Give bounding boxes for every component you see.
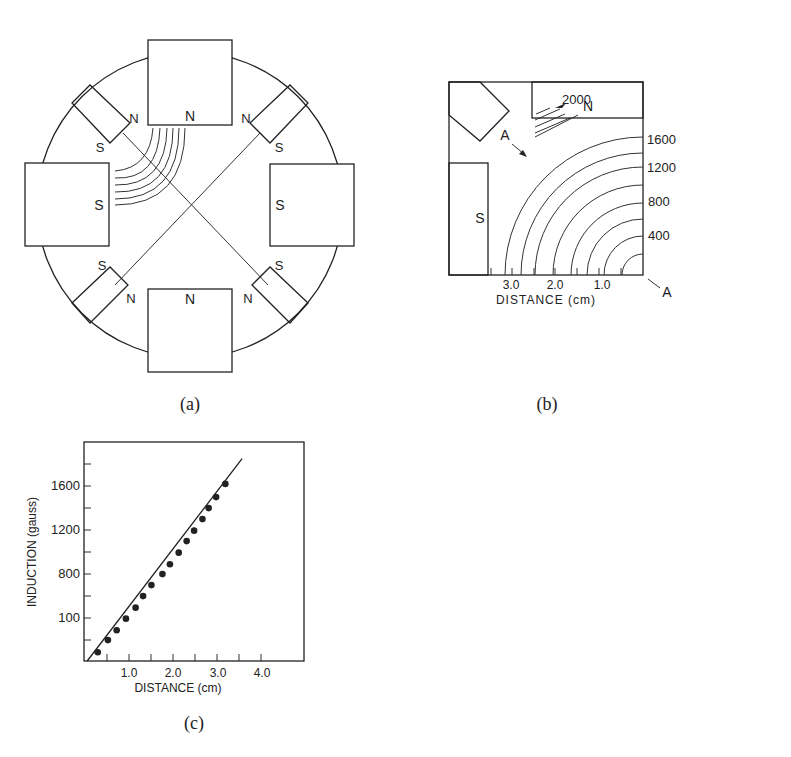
data-point bbox=[205, 505, 212, 512]
contour-label-1200: 1200 bbox=[647, 160, 676, 175]
figure-c: 1600 1200 800 100 INDUCTION (gauss) 1.0 … bbox=[25, 442, 304, 734]
x-tick-1: 1.0 bbox=[594, 278, 611, 292]
corner-a-leader bbox=[648, 279, 660, 288]
data-point bbox=[159, 571, 166, 578]
br-south-label: S bbox=[275, 258, 284, 273]
br-north-label: N bbox=[243, 291, 252, 306]
x-axis-ticks bbox=[107, 654, 261, 661]
top-left-small-magnet bbox=[72, 85, 130, 143]
right-pole-label: S bbox=[275, 197, 284, 213]
caption-b: (b) bbox=[537, 394, 558, 415]
caption-c: (c) bbox=[184, 713, 204, 734]
data-point bbox=[148, 582, 155, 589]
x-axis-label: DISTANCE (cm) bbox=[134, 681, 221, 695]
bottom-pole-label: N bbox=[185, 291, 195, 307]
data-point bbox=[213, 494, 220, 501]
data-point bbox=[183, 538, 190, 545]
x-tick-3: 3.0 bbox=[210, 666, 227, 680]
x-axis-label: DISTANCE (cm) bbox=[496, 293, 596, 307]
contour-label-800: 800 bbox=[648, 194, 670, 209]
top-pole-label: N bbox=[185, 108, 195, 124]
contour-label-2000: 2000 bbox=[562, 92, 591, 107]
data-point bbox=[167, 561, 174, 568]
bl-north-label: N bbox=[126, 291, 135, 306]
x-tick-2: 2.0 bbox=[547, 278, 564, 292]
y-axis-ticks bbox=[84, 464, 91, 640]
corner-a-label: A bbox=[662, 284, 672, 300]
y-tick-1200: 1200 bbox=[51, 522, 80, 537]
y-tick-400: 100 bbox=[58, 610, 80, 625]
arrow-a-label: A bbox=[500, 127, 510, 143]
figure-a: N N S S N S N S S N S N (a) bbox=[25, 40, 354, 415]
bottom-right-small-magnet bbox=[252, 267, 308, 323]
tr-south-label: S bbox=[275, 140, 284, 155]
tl-south-label: S bbox=[96, 140, 105, 155]
x-tick-1: 1.0 bbox=[121, 666, 138, 680]
tr-north-label: N bbox=[241, 111, 250, 126]
y-tick-800: 800 bbox=[58, 566, 80, 581]
field-contours bbox=[505, 108, 643, 275]
tl-north-label: N bbox=[129, 111, 138, 126]
figure-canvas: N N S S N S N S S N S N (a) bbox=[0, 0, 791, 757]
caption-a: (a) bbox=[180, 394, 200, 415]
figure-b: N S A 2000 1600 1200 800 400 3.0 2.0 1.0… bbox=[449, 82, 676, 415]
quadrant-frame bbox=[449, 82, 643, 275]
data-point bbox=[113, 627, 120, 634]
contour-label-1600: 1600 bbox=[647, 132, 676, 147]
diagonal-line-2 bbox=[115, 133, 260, 285]
data-point bbox=[105, 637, 112, 644]
data-point bbox=[191, 527, 198, 534]
data-point bbox=[199, 516, 206, 523]
south-pole-label: S bbox=[475, 210, 484, 226]
data-point bbox=[222, 481, 229, 488]
left-pole-label: S bbox=[94, 197, 103, 213]
x-axis-ticks bbox=[491, 268, 621, 275]
bottom-left-small-magnet bbox=[72, 267, 128, 323]
data-point bbox=[175, 549, 182, 556]
y-axis-label: INDUCTION (gauss) bbox=[25, 497, 39, 607]
fit-line bbox=[87, 459, 242, 661]
contour-label-400: 400 bbox=[648, 228, 670, 243]
data-point bbox=[132, 604, 139, 611]
x-tick-4: 4.0 bbox=[254, 666, 271, 680]
flux-lines bbox=[115, 128, 185, 205]
y-tick-1600: 1600 bbox=[51, 478, 80, 493]
data-point bbox=[140, 593, 147, 600]
data-point bbox=[123, 615, 130, 622]
data-point bbox=[94, 649, 101, 656]
x-tick-2: 2.0 bbox=[165, 666, 182, 680]
data-points bbox=[94, 481, 228, 656]
bl-south-label: S bbox=[98, 258, 107, 273]
x-tick-3: 3.0 bbox=[503, 278, 520, 292]
